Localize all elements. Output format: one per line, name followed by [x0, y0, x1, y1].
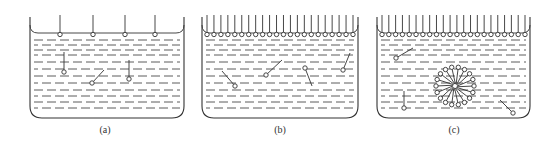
- surfactant-molecule: [457, 84, 476, 88]
- hydrophilic-head: [450, 103, 454, 107]
- hydrophilic-head: [341, 68, 345, 72]
- hydrophilic-head: [58, 32, 62, 36]
- hydrophilic-head: [407, 32, 411, 36]
- surfactant-molecule: [330, 15, 334, 37]
- hydrophilic-head: [344, 32, 348, 36]
- hydrophilic-head: [309, 32, 313, 36]
- surfactant-molecule: [337, 15, 341, 37]
- liquid-surface: [30, 25, 184, 33]
- hydrophilic-head: [455, 32, 459, 36]
- surfactant-molecule: [434, 84, 453, 88]
- surfactant-molecule: [274, 15, 278, 37]
- surfactant-molecule: [295, 15, 299, 37]
- hydrophilic-head: [435, 90, 439, 94]
- hydrophilic-head: [471, 77, 475, 81]
- surfactant-molecule: [380, 15, 384, 37]
- hydrophilic-head: [394, 56, 398, 60]
- hydrophilic-head: [274, 32, 278, 36]
- hydrophilic-head: [441, 32, 445, 36]
- hydrophilic-head: [496, 32, 500, 36]
- hydrophilic-head: [153, 32, 157, 36]
- hydrophilic-head: [302, 32, 306, 36]
- hydrophilic-head: [434, 84, 438, 88]
- surfactant-molecule: [323, 15, 327, 37]
- hydrophilic-head: [281, 32, 285, 36]
- hydrophilic-head: [516, 32, 520, 36]
- hydrophilic-head: [462, 100, 466, 104]
- hydrophilic-head: [462, 67, 466, 71]
- panel-label-b: (b): [274, 124, 286, 135]
- surfactant-molecule: [448, 15, 452, 37]
- hydrophilic-head: [467, 72, 471, 76]
- surfactant-molecule: [414, 15, 418, 37]
- panel-b: [202, 15, 358, 118]
- hydrophilic-head: [123, 32, 127, 36]
- hydrophilic-head: [482, 32, 486, 36]
- surfactant-molecule: [302, 15, 306, 37]
- hydrophilic-head: [509, 32, 513, 36]
- hydrophilic-head: [264, 73, 268, 77]
- hydrophilic-head: [233, 32, 237, 36]
- hydrophilic-head: [330, 32, 334, 36]
- surfactant-molecule: [153, 15, 157, 37]
- hydrophilic-head: [523, 32, 527, 36]
- surfactant-molecule: [123, 15, 127, 37]
- hydrophilic-head: [253, 32, 257, 36]
- hydrophilic-head: [402, 106, 406, 110]
- surfactant-molecule: [496, 15, 500, 37]
- hydrophilic-head: [434, 32, 438, 36]
- surfactant-molecule: [219, 15, 223, 37]
- surfactant-molecule: [316, 15, 320, 37]
- surfactant-molecule: [58, 15, 62, 37]
- panel-label-c: (c): [448, 124, 459, 135]
- hydrophilic-head: [212, 32, 216, 36]
- hydrophilic-head: [316, 32, 320, 36]
- surfactant-molecule: [226, 15, 230, 37]
- surfactant-molecule: [482, 15, 486, 37]
- surfactant-molecule: [351, 15, 355, 37]
- micelle: [434, 65, 476, 107]
- hydrophilic-head: [295, 32, 299, 36]
- hydrophilic-head: [400, 32, 404, 36]
- surfactant-molecule: [489, 15, 493, 37]
- hydrophilic-head: [387, 32, 391, 36]
- liquid-surface: [202, 25, 358, 33]
- hydrophilic-head: [456, 103, 460, 107]
- hydrophilic-head: [443, 67, 447, 71]
- hydrophilic-head: [450, 65, 454, 69]
- surfactant-molecule: [212, 15, 216, 37]
- hydrophilic-head: [260, 32, 264, 36]
- surfactant-molecule: [127, 60, 131, 81]
- surfactant-molecule: [455, 15, 459, 37]
- hydrophilic-head: [475, 32, 479, 36]
- surfactant-molecule: [400, 15, 404, 37]
- hydrophilic-head: [489, 32, 493, 36]
- surfactant-molecule: [253, 15, 257, 37]
- surfactant-molecule: [434, 15, 438, 37]
- surfactant-molecule: [516, 15, 520, 37]
- hydrophobic-tail: [222, 71, 235, 86]
- surfactant-molecule: [468, 15, 472, 37]
- hydrophilic-head: [443, 100, 447, 104]
- hydrophilic-head: [219, 32, 223, 36]
- surfactant-molecule: [267, 15, 271, 37]
- hydrophilic-head: [393, 32, 397, 36]
- hydrophilic-head: [323, 32, 327, 36]
- surfactant-molecule: [344, 15, 348, 37]
- surfactant-molecule: [475, 15, 479, 37]
- surfactant-molecule: [462, 15, 466, 37]
- panel-a: [30, 15, 184, 118]
- surfactant-molecule: [387, 15, 391, 37]
- hydrophilic-head: [467, 96, 471, 100]
- hydrophilic-head: [380, 32, 384, 36]
- surfactant-molecule: [523, 15, 527, 37]
- hydrophilic-head: [62, 70, 66, 74]
- hydrophilic-head: [414, 32, 418, 36]
- hydrophilic-head: [468, 32, 472, 36]
- surfactant-molecule: [281, 15, 285, 37]
- hydrophobic-tail: [92, 70, 104, 83]
- hydrophilic-head: [303, 66, 307, 70]
- hydrophilic-head: [337, 32, 341, 36]
- hydrophilic-head: [226, 32, 230, 36]
- surfactant-molecule: [240, 15, 244, 37]
